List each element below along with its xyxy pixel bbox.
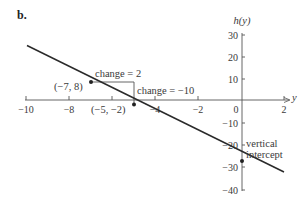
y-tick-label: −30 xyxy=(222,162,238,173)
y-tick-label: 30 xyxy=(228,30,238,41)
y-tick-label: 10 xyxy=(228,74,238,85)
point-marker xyxy=(240,159,244,163)
slope-triangle xyxy=(91,82,134,104)
x-tick-label: 2 xyxy=(282,104,287,115)
point-label: (−7, 8) xyxy=(54,81,83,93)
point-label: (−5, −2) xyxy=(91,104,126,116)
x-tick-label: −10 xyxy=(18,104,34,115)
y-tick-label: 20 xyxy=(228,52,238,63)
x-axis-label: y xyxy=(291,92,297,103)
rise-annotation: change = −10 xyxy=(137,85,194,96)
intercept-label-line2: intercept xyxy=(246,149,283,160)
intercept-label-line1: vertical xyxy=(246,138,278,149)
run-annotation: change = 2 xyxy=(95,68,141,79)
y-tick-label: −40 xyxy=(222,185,238,196)
y-axis-label: h(y) xyxy=(234,15,251,27)
point-marker xyxy=(89,80,93,84)
x-tick-label: −4 xyxy=(150,104,161,115)
point-marker xyxy=(132,103,136,107)
x-tick-label: 0 xyxy=(234,104,239,115)
linear-function-chart: b. −10 −8 −4 −2 0 2 y xyxy=(0,0,303,201)
y-tick-label: −10 xyxy=(222,118,238,129)
x-tick-label: −2 xyxy=(193,104,204,115)
panel-label: b. xyxy=(17,8,27,22)
x-tick-label: −8 xyxy=(64,104,75,115)
